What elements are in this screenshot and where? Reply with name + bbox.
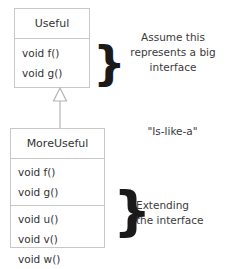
class-methods-extended: void u() void v() void w() [11,206,104,269]
annotation-is-like-a: "Is-like-a" [120,124,225,139]
method-item: void v() [11,229,104,249]
method-item: void f() [15,43,89,63]
annotation-extending: Extending the interface [136,198,230,228]
annotation-line: Extending [136,198,230,213]
method-item: void g() [15,63,89,83]
class-methods-useful: void f() void g() [15,39,89,87]
annotation-big-interface: Assume this represents a big interface [118,30,228,75]
method-item: void f() [11,162,104,182]
method-item: void w() [11,249,104,269]
class-box-moreuseful[interactable]: MoreUseful void f() void g() void u() vo… [10,128,105,248]
class-box-useful[interactable]: Useful void f() void g() [14,8,90,88]
class-methods-inherited: void f() void g() [11,159,104,206]
annotation-line: Assume this [118,30,228,45]
class-name-moreuseful: MoreUseful [11,129,104,159]
class-name-useful: Useful [15,9,89,39]
annotation-line: represents a big [118,45,228,60]
method-item: void g() [11,182,104,202]
method-item: void u() [11,209,104,229]
annotation-line: the interface [136,213,230,228]
generalization-arrow-icon [44,86,76,130]
annotation-line: interface [118,60,228,75]
